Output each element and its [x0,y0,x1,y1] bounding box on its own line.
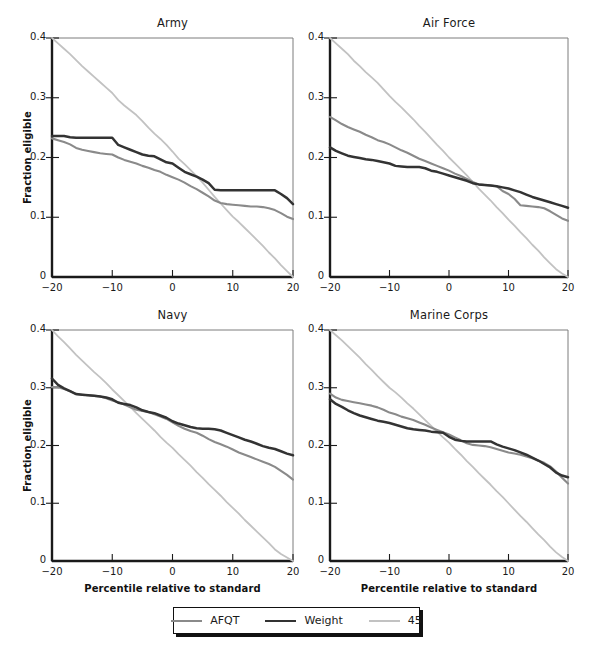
legend-label: AFQT [210,614,239,627]
series-line-45 [52,38,293,277]
panel-title-army: Army [52,16,293,30]
series-line-weight [52,136,293,204]
x-tick-label: 10 [213,282,253,293]
legend: AFQTWeight45 [173,607,420,634]
y-tick-label: 0.4 [284,31,324,42]
series-line-45 [330,38,568,277]
series-line-45 [52,330,293,561]
legend-label: 45 [408,614,422,627]
y-tick-label: 0 [6,270,46,281]
x-tick-label: 20 [273,282,313,293]
y-tick-label: 0.1 [6,496,46,507]
plot-frame [330,330,568,561]
x-tick-label: 10 [489,566,529,577]
y-axis-title: Fraction eligible [22,399,33,492]
y-tick-label: 0.2 [284,439,324,450]
y-tick-label: 0.4 [6,323,46,334]
legend-entry-weight[interactable]: Weight [265,614,342,627]
y-tick-label: 0.3 [6,381,46,392]
legend-line-icon [171,620,202,622]
x-tick-label: −20 [310,282,350,293]
y-tick-label: 0.3 [6,91,46,102]
series-line-weight [330,147,568,207]
series-line-afqt [52,138,293,219]
x-tick-label: −10 [92,566,132,577]
y-tick-label: 0.1 [6,210,46,221]
x-tick-label: 10 [489,282,529,293]
x-tick-label: −10 [92,282,132,293]
y-tick-label: 0 [284,554,324,565]
x-tick-label: −20 [32,566,72,577]
series-line-afqt [52,387,293,479]
legend-entry-afqt[interactable]: AFQT [171,614,239,627]
x-axis-title: Percentile relative to standard [330,583,568,594]
plot-frame [52,38,293,277]
legend-line-icon [369,620,400,622]
y-tick-label: 0.3 [284,381,324,392]
series-line-weight [330,399,568,477]
panel-title-air-force: Air Force [330,16,568,30]
series-line-weight [52,379,293,456]
y-tick-label: 0.3 [284,91,324,102]
legend-line-icon [265,620,296,622]
panel-title-navy: Navy [52,308,293,322]
y-tick-label: 0 [6,554,46,565]
y-tick-label: 0.1 [284,496,324,507]
y-tick-label: 0 [284,270,324,281]
x-axis-title: Percentile relative to standard [52,583,293,594]
legend-entry-45[interactable]: 45 [369,614,422,627]
y-tick-label: 0.4 [6,31,46,42]
x-tick-label: 0 [429,566,469,577]
x-tick-label: 0 [429,282,469,293]
x-tick-label: −20 [310,566,350,577]
x-tick-label: 20 [273,566,313,577]
x-tick-label: 20 [548,566,588,577]
panel-title-marine-corps: Marine Corps [330,308,568,322]
x-tick-label: −10 [370,566,410,577]
x-tick-label: 0 [153,566,193,577]
plot-frame [330,38,568,277]
series-line-afqt [330,394,568,484]
y-axis-title: Fraction eligible [22,111,33,204]
y-tick-label: 0.1 [284,210,324,221]
x-tick-label: 20 [548,282,588,293]
x-tick-label: 0 [153,282,193,293]
y-tick-label: 0.4 [284,323,324,334]
series-line-afqt [330,117,568,221]
x-tick-label: 10 [213,566,253,577]
x-tick-label: −20 [32,282,72,293]
x-tick-label: −10 [370,282,410,293]
y-tick-label: 0.2 [284,151,324,162]
legend-label: Weight [304,614,342,627]
plot-frame [52,330,293,561]
chart-figure: Army00.10.20.30.4−20−1001020Fraction eli… [0,0,595,655]
series-line-45 [330,330,568,561]
